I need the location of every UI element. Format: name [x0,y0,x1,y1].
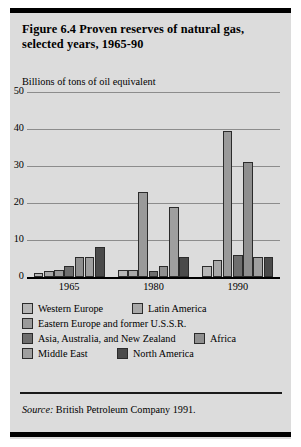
bar-group-1965 [27,92,111,277]
legend-row: Eastern Europe and former U.S.S.R. [22,318,280,333]
bar [159,266,169,277]
legend-item: Latin America [132,303,207,314]
bar [233,255,243,277]
legend-swatch [22,303,33,314]
x-tick-label-1965: 1965 [59,281,80,292]
x-axis-tick-labels: 196519801990 [27,281,280,295]
y-tick-label-0: 0 [6,271,24,281]
y-tick-label-10: 10 [6,234,24,244]
legend-item: Eastern Europe and former U.S.S.R. [22,318,186,329]
legend-row: Western EuropeLatin America [22,303,280,318]
legend-swatch [194,333,205,344]
legend-label: Middle East [38,348,88,359]
bar-group-1990 [196,92,280,277]
y-tick-label-20: 20 [6,197,24,207]
legend-label: Latin America [148,303,207,314]
legend-item: Western Europe [22,303,103,314]
legend-swatch [22,348,33,359]
y-axis-label: Billions of tons of oil equivalent [22,76,156,87]
bar [54,270,64,277]
legend-item: Middle East [22,348,88,359]
source-text: British Petroleum Company 1991. [56,404,196,415]
bar-group-1980 [111,92,195,277]
top-rule [10,8,291,13]
legend-swatch [117,348,128,359]
bar [118,270,128,277]
x-tick-label-1980: 1980 [143,281,164,292]
bar [95,247,105,277]
bar [253,257,263,277]
legend-item: Asia, Australia, and New Zealand [22,333,176,344]
source-label: Source: [22,404,53,415]
bar [169,207,179,277]
chart-legend: Western EuropeLatin AmericaEastern Europ… [22,303,280,363]
source-divider-rule [20,392,282,394]
legend-label: Africa [210,333,236,344]
source-note: Source: British Petroleum Company 1991. [22,404,196,415]
bar [264,257,274,277]
legend-label: Asia, Australia, and New Zealand [38,333,176,344]
legend-label: Western Europe [38,303,103,314]
legend-swatch [22,318,33,329]
legend-row: Middle EastNorth America [22,348,280,363]
y-tick-label-40: 40 [6,123,24,133]
plot-area: 01020304050 [27,92,280,278]
bar [223,131,233,277]
legend-item: North America [117,348,194,359]
bar [128,270,138,277]
bar [64,266,74,277]
bar [243,162,253,277]
y-tick-label-30: 30 [6,160,24,170]
bottom-rule [10,432,291,437]
bar-series-container [27,92,280,277]
x-axis-line [27,277,280,279]
right-margin [295,0,301,447]
bar [75,257,85,277]
y-tick-label-50: 50 [6,86,24,96]
bar [138,192,148,277]
legend-label: North America [133,348,194,359]
legend-swatch [22,333,33,344]
x-tick-label-1990: 1990 [228,281,249,292]
legend-swatch [132,303,143,314]
figure-title: Figure 6.4 Proven reserves of natural ga… [22,22,277,52]
legend-item: Africa [194,333,236,344]
bar [213,260,223,277]
bar [179,257,189,277]
legend-label: Eastern Europe and former U.S.S.R. [38,318,186,329]
legend-row: Asia, Australia, and New ZealandAfrica [22,333,280,348]
figure-container: Figure 6.4 Proven reserves of natural ga… [0,0,301,447]
left-margin [0,0,6,447]
bar [85,257,95,277]
bar [202,266,212,277]
